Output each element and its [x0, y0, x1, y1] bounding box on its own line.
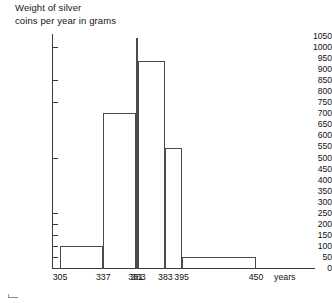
- y-axis-tick-mark: [52, 80, 58, 81]
- y-axis-tick-label: 450: [286, 165, 332, 174]
- x-axis-tick-label: 337: [96, 273, 111, 282]
- y-axis-tick-label: 700: [286, 109, 332, 118]
- y-axis-tick-label: 150: [286, 231, 332, 240]
- y-axis-tick-mark: [52, 235, 58, 236]
- y-axis-tick-label: 400: [286, 176, 332, 185]
- silver-coin-weight-histogram: Weight of silver coins per year in grams…: [0, 0, 332, 303]
- x-axis-tick-label: 450: [249, 273, 264, 282]
- x-axis-tick-label: 395: [174, 273, 189, 282]
- y-axis-tick-label: 1000: [286, 43, 332, 52]
- x-axis-tick-label: 305: [53, 273, 68, 282]
- y-axis-tick-label: 500: [286, 154, 332, 163]
- y-axis-tick-label: 1050: [286, 32, 332, 41]
- x-axis-tick-label: 363: [131, 273, 146, 282]
- y-axis-tick-label: 850: [286, 76, 332, 85]
- y-axis-tick-label: 250: [286, 209, 332, 218]
- y-axis-tick-label: 550: [286, 142, 332, 151]
- y-axis-tick-label: 750: [286, 98, 332, 107]
- scan-artifact-mark: [8, 294, 18, 298]
- y-axis-tick-mark: [52, 158, 58, 159]
- y-axis-tick-mark: [52, 246, 58, 247]
- y-axis-line: [52, 34, 53, 269]
- chart-title-line1: Weight of silver: [15, 2, 81, 13]
- y-axis-tick-label: 350: [286, 187, 332, 196]
- histogram-bar: [103, 113, 135, 269]
- histogram-bar: [138, 61, 165, 269]
- y-axis-tick-label: 800: [286, 87, 332, 96]
- histogram-bar: [165, 148, 181, 269]
- chart-title: Weight of silver coins per year in grams: [15, 2, 116, 27]
- y-axis-tick-label: 100: [286, 242, 332, 251]
- y-axis-tick-mark: [52, 102, 58, 103]
- y-axis-tick-mark: [52, 213, 58, 214]
- x-axis-tick-label: 383: [158, 273, 173, 282]
- y-axis-tick-label: 900: [286, 65, 332, 74]
- y-axis-tick-mark: [52, 47, 58, 48]
- y-axis-tick-label: 950: [286, 54, 332, 63]
- y-axis-tick-label: 200: [286, 220, 332, 229]
- chart-title-line2: coins per year in grams: [15, 15, 116, 26]
- y-axis-tick-mark: [52, 257, 58, 258]
- y-axis-tick-mark: [52, 224, 58, 225]
- y-axis-tick-label: 650: [286, 120, 332, 129]
- y-axis-tick-label: 300: [286, 198, 332, 207]
- y-axis-tick-label: 50: [286, 253, 332, 262]
- x-axis-title: years: [274, 273, 296, 282]
- histogram-bar: [182, 257, 256, 269]
- y-axis-tick-label: 600: [286, 131, 332, 140]
- histogram-bar: [60, 246, 103, 269]
